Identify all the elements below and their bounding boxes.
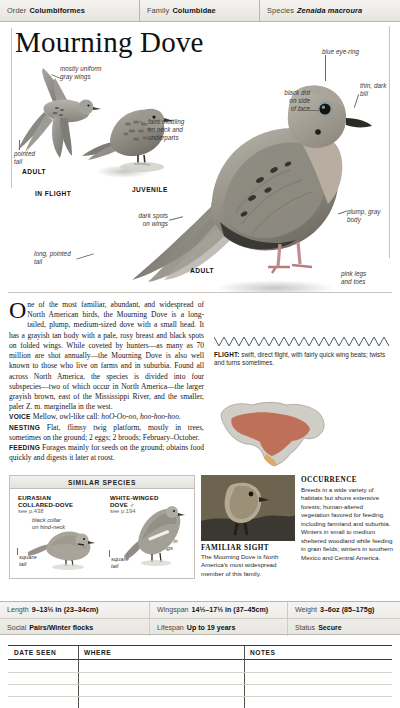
account-top-rule: [8, 292, 392, 293]
eurasian-collared-dove-illustration: [22, 522, 102, 572]
taxon-order-label: Order: [7, 6, 26, 15]
callout-pointed-tail: pointedtail: [14, 150, 58, 166]
stat-lifespan-label: Lifespan: [157, 624, 184, 632]
stat-status-label: Status: [295, 624, 315, 632]
leader-black-dot: [297, 110, 319, 111]
notes-ruled-line-1[interactable]: [8, 672, 392, 673]
familiar-sight-photo: [201, 475, 295, 541]
stats-table: Length 9–13½ in (23–34cm) Wingspan 14½–1…: [0, 601, 400, 635]
taxon-family: Family Columbidae: [140, 0, 260, 21]
nesting-label: NESTING: [9, 424, 40, 431]
notes-ruled-line-3[interactable]: [8, 696, 392, 697]
taxon-species: Species Zenaida macroura: [260, 0, 400, 21]
notes-col-date-seen: DATE SEEN: [8, 646, 78, 659]
feeding-label: FEEDING: [9, 444, 40, 451]
similar-species-panel: SIMILAR SPECIES EURASIANCOLLARED-DOVE se…: [9, 475, 195, 579]
callout-plump-body: plump, graybody: [347, 208, 397, 224]
field-notes-header: DATE SEEN WHERE NOTES: [8, 645, 392, 660]
stat-weight-label: Weight: [295, 606, 317, 614]
taxon-family-value: Columbidae: [172, 6, 215, 15]
stat-status: Status Secure: [288, 619, 400, 636]
stat-weight-value: 3–6oz (85–175g): [320, 606, 374, 614]
stat-length-value: 9–13½ in (23–34cm): [32, 606, 99, 614]
account-text-column: One of the most familiar, abundant, and …: [9, 300, 204, 464]
notes-col-where: WHERE: [78, 646, 244, 659]
stat-length-label: Length: [7, 606, 29, 614]
callout-thin-dark-bill: thin, darkbill: [360, 82, 396, 98]
range-map: [214, 396, 334, 472]
familiar-sight-title: FAMILIAR SIGHT: [201, 544, 269, 552]
account-feeding: FEEDING Forages mainly for seeds on the …: [9, 443, 204, 463]
field-notes-table: DATE SEEN WHERE NOTES: [0, 645, 400, 708]
stat-lifespan: Lifespan Up to 19 years: [150, 619, 288, 636]
stats-row-measurements: Length 9–13½ in (23–34cm) Wingspan 14½–1…: [0, 602, 400, 619]
account-nesting: NESTING Flat, flimsy twig platform, most…: [9, 423, 204, 443]
stat-social-value: Pairs/Winter flocks: [29, 624, 93, 632]
taxon-species-label: Species: [267, 6, 294, 15]
flight-path-icon: [214, 334, 392, 348]
flight-label: FLIGHT:: [214, 351, 240, 358]
notes-ruled-line-2[interactable]: [8, 684, 392, 685]
familiar-sight-photo-graphic: [201, 475, 295, 541]
voice-call: hoO-Oo-oo, hoo-hoo-hoo.: [101, 412, 180, 421]
field-guide-page: Order Columbiformes Family Columbidae Sp…: [0, 0, 400, 708]
notes-divider-1: [78, 646, 79, 708]
voice-text: Mellow, owl-like call:: [33, 412, 100, 421]
stat-wingspan: Wingspan 14½–17½ in (37–45cm): [150, 602, 288, 618]
leader-pointed-tail: [19, 140, 20, 150]
drop-cap: O: [9, 301, 26, 321]
white-winged-dove-illustration: [118, 498, 192, 570]
callout-dark-spots: dark spotson wings: [114, 212, 168, 228]
taxon-family-label: Family: [147, 6, 169, 15]
stat-wingspan-label: Wingspan: [157, 606, 189, 614]
taxon-species-value: Zenaida macroura: [297, 6, 362, 15]
account-intro-text: ne of the most familiar, abundant, and w…: [9, 300, 204, 411]
caption-adult-perched: ADULT: [190, 267, 214, 274]
account-voice: VOICE Mellow, owl-like call: hoO-Oo-oo, …: [9, 412, 204, 422]
familiar-sight-text: The Mourning Dove is North America's mos…: [201, 553, 295, 578]
similar-species-heading: SIMILAR SPECIES: [10, 476, 194, 489]
leader-blue-eye-ring: [325, 55, 326, 81]
species-account: One of the most familiar, abundant, and …: [0, 292, 400, 600]
taxon-order: Order Columbiformes: [0, 0, 140, 21]
leader-sp1-tail: [17, 548, 18, 555]
stat-social: Social Pairs/Winter flocks: [0, 619, 150, 636]
stats-row-lifehistory: Social Pairs/Winter flocks Lifespan Up t…: [0, 619, 400, 636]
similar-species-1-name: EURASIANCOLLARED-DOVE: [18, 494, 88, 509]
callout-blue-eye-ring: blue eye-ring: [322, 48, 382, 56]
stat-wingspan-value: 14½–17½ in (37–45cm): [192, 606, 269, 614]
callout-long-pointed-tail: long, pointedtail: [34, 250, 90, 266]
caption-in-flight: IN FLIGHT: [35, 190, 71, 197]
flight-description: FLIGHT: swift, direct flight, with fairl…: [214, 351, 392, 368]
voice-label: VOICE: [9, 413, 31, 420]
illustration-plate: Mourning Dove: [0, 22, 400, 292]
caption-adult-flight: ADULT: [22, 168, 46, 175]
flight-text: swift, direct flight, with fairly quick …: [214, 351, 385, 366]
stat-lifespan-value: Up to 19 years: [187, 624, 236, 632]
leader-sp2-tail: [109, 550, 110, 557]
occurrence-text: Breeds in a wide variety of habitats but…: [301, 486, 393, 562]
stat-length: Length 9–13½ in (23–34cm): [0, 602, 150, 618]
stat-social-label: Social: [7, 624, 26, 632]
stat-status-value: Secure: [318, 624, 342, 632]
notes-divider-2: [244, 646, 245, 708]
occurrence-title: OCCURRENCE: [301, 476, 357, 484]
callout-gray-wings: mostly uniformgray wings: [60, 65, 126, 81]
range-map-graphic: [214, 396, 334, 472]
flight-panel: FLIGHT: swift, direct flight, with fairl…: [214, 334, 392, 368]
notes-col-notes: NOTES: [244, 646, 392, 659]
similar-species-1-page: see p.438: [18, 508, 43, 514]
taxonomy-header: Order Columbiformes Family Columbidae Sp…: [0, 0, 400, 22]
callout-pink-legs: pink legsand toes: [341, 270, 389, 286]
bird-adult-perched-illustration: [120, 52, 390, 292]
taxon-order-value: Columbiformes: [29, 6, 85, 15]
account-intro-paragraph: One of the most familiar, abundant, and …: [9, 300, 204, 412]
stat-weight: Weight 3–6oz (85–175g): [288, 602, 400, 618]
